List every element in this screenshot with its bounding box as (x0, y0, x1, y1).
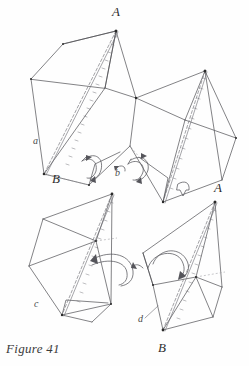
panel-a-shape (30, 30, 136, 187)
panel-c-shape (29, 193, 117, 322)
figure-page: A a B b c d A B Figure 41 (0, 0, 249, 366)
rotation-arrow-b (128, 153, 148, 184)
label-vertex-b-bottom: B (158, 341, 166, 354)
label-d-leader (145, 306, 158, 318)
figure-caption: Figure 41 (6, 341, 60, 357)
rotation-arrow-d (131, 251, 189, 280)
label-part-c: c (34, 299, 38, 309)
label-part-a: a (33, 136, 38, 146)
label-vertex-a-top: A (112, 5, 120, 18)
figure-illustration (0, 0, 249, 366)
rotation-arrow-a (82, 155, 102, 183)
label-part-b: b (115, 168, 120, 178)
rotation-arrow-b-tab (177, 182, 189, 196)
label-vertex-b-left: B (52, 172, 60, 185)
label-vertex-a-bottom: A (214, 181, 222, 194)
label-part-d: d (138, 314, 143, 324)
